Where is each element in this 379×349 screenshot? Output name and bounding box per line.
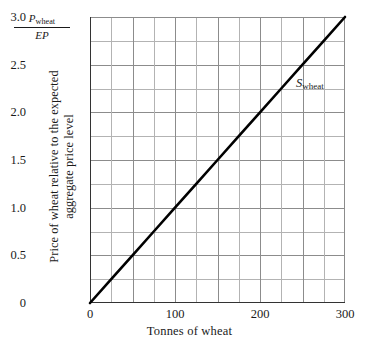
- y-tick-label: 2.5: [10, 58, 26, 71]
- numerator-variable: P: [29, 12, 36, 24]
- y-tick-label: 1.0: [10, 201, 26, 214]
- numerator-subscript: wheat: [36, 17, 56, 26]
- x-tick-label: 0: [87, 308, 93, 321]
- y-axis-title-line-1: Price of wheat relative to the expected: [47, 42, 62, 292]
- y-axis-title-line-2: aggregate price level: [61, 42, 76, 292]
- curve-label-s-wheat: Swheat: [296, 76, 324, 91]
- x-axis-title: Tonnes of wheat: [0, 324, 379, 339]
- y-tick-label: 2.0: [10, 106, 26, 119]
- y-tick-label: 3.0: [10, 11, 26, 24]
- chart-root: Pwheat EP Price of wheat relative to the…: [0, 0, 379, 349]
- supply-curve-svg: [90, 17, 345, 303]
- y-tick-label: 0: [20, 297, 26, 310]
- x-tick-label: 200: [251, 308, 270, 321]
- fraction-denominator: EP: [14, 28, 70, 41]
- y-axis-title: Price of wheat relative to the expected …: [47, 42, 76, 292]
- y-tick-label: 0.5: [10, 249, 26, 262]
- x-tick-label: 100: [166, 308, 185, 321]
- y-tick-label: 1.5: [10, 154, 26, 167]
- x-tick-label: 300: [336, 308, 355, 321]
- curve-label-subscript: wheat: [302, 81, 324, 91]
- supply-curve-line: [90, 17, 345, 303]
- plot-area: [90, 17, 345, 303]
